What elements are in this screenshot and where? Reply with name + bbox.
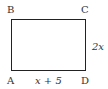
side-label-bottom: x + 5	[35, 76, 62, 86]
vertex-label-a: A	[7, 76, 14, 86]
vertex-label-d: D	[81, 76, 89, 86]
vertex-label-c: C	[81, 5, 89, 15]
side-label-right: 2x	[92, 42, 104, 52]
rectangle-abcd	[11, 19, 86, 71]
rectangle-diagram: B C A D x + 5 2x	[0, 0, 108, 89]
vertex-label-b: B	[7, 5, 14, 15]
